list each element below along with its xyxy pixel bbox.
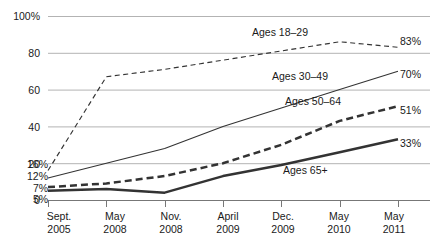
x-tick-1-month: May xyxy=(88,210,142,223)
end-value-ages-50-64: 51% xyxy=(400,105,421,116)
series-label-ages-50-64: Ages 50–64 xyxy=(285,96,341,107)
end-value-ages-30-49: 70% xyxy=(400,69,421,80)
x-tick-0-month: Sept. xyxy=(32,210,86,223)
y-tick-label-100: 100% xyxy=(13,11,40,22)
x-tick-4-month: Dec. xyxy=(256,210,310,223)
start-value-ages-30-49: 12% xyxy=(27,171,48,182)
start-value-ages-18-29: 16% xyxy=(27,159,48,170)
series-line-ages-65 xyxy=(48,139,398,192)
series-label-ages-30-49: Ages 30–49 xyxy=(272,71,328,82)
y-tick-label-60: 60 xyxy=(28,85,40,96)
x-tick-5-year: 2010 xyxy=(312,223,366,236)
y-tick-label-80: 80 xyxy=(28,48,40,59)
x-tick-3-month: April xyxy=(201,210,255,223)
start-value-ages-50-64: 7% xyxy=(33,183,48,194)
x-tick-3-year: 2009 xyxy=(201,223,255,236)
series-label-ages-65-plus: Ages 65+ xyxy=(283,165,328,176)
start-value-ages-65-plus: 5% xyxy=(33,194,48,205)
x-tick-4-year: 2009 xyxy=(256,223,310,236)
x-tick-3: April 2009 xyxy=(201,210,255,236)
x-tick-2: Nov. 2008 xyxy=(144,210,198,236)
x-tick-1-year: 2008 xyxy=(88,223,142,236)
end-value-ages-18-29: 83% xyxy=(400,36,421,47)
x-tick-0: Sept. 2005 xyxy=(32,210,86,236)
y-tick-label-40: 40 xyxy=(28,122,40,133)
series-lines xyxy=(48,42,398,193)
x-tick-4: Dec. 2009 xyxy=(256,210,310,236)
x-tick-2-year: 2008 xyxy=(144,223,198,236)
x-axis-ticks xyxy=(49,201,399,207)
x-tick-2-month: Nov. xyxy=(144,210,198,223)
x-tick-6: May 2011 xyxy=(367,210,421,236)
end-value-ages-65-plus: 33% xyxy=(400,138,421,149)
x-tick-5-month: May xyxy=(312,210,366,223)
x-tick-1: May 2008 xyxy=(88,210,142,236)
series-label-ages-18-29: Ages 18–29 xyxy=(252,27,308,38)
x-tick-6-year: 2011 xyxy=(367,223,421,236)
x-tick-5: May 2010 xyxy=(312,210,366,236)
line-chart: 100% 80 60 40 20 0 16% 12% 7% 5% 83% 70%… xyxy=(0,0,430,246)
x-tick-0-year: 2005 xyxy=(32,223,86,236)
x-tick-6-month: May xyxy=(367,210,421,223)
